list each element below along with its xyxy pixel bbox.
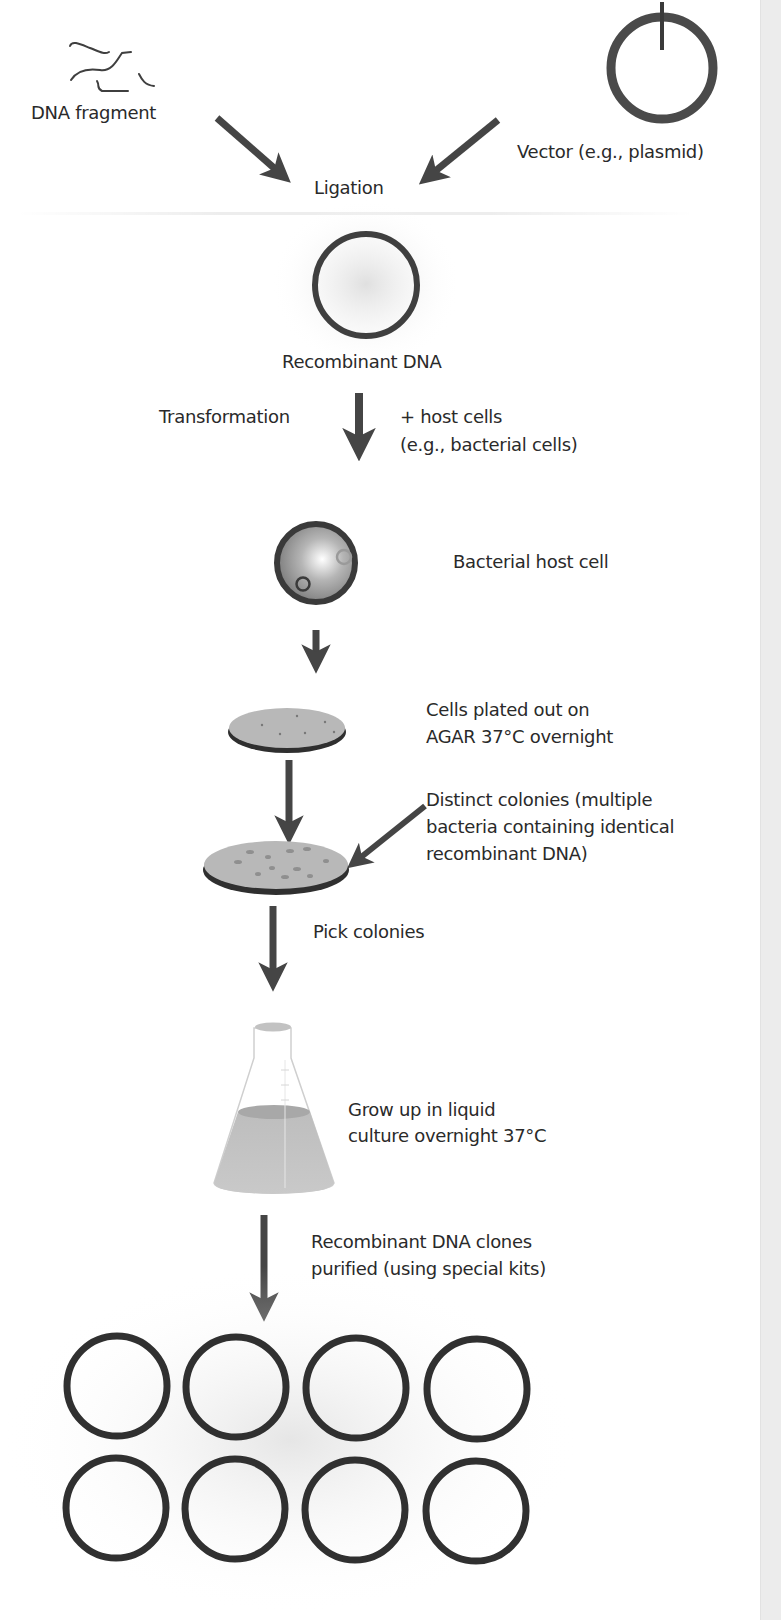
ligation-label: Ligation	[314, 176, 384, 200]
agar-plate-icon	[228, 708, 346, 753]
arrow-vector-to-ligation	[428, 120, 498, 177]
plating-label-line2: AGAR 37°C overnight	[426, 725, 613, 749]
arrow-colonies-label	[355, 806, 425, 862]
colonies-label-line3: recombinant DNA)	[426, 842, 587, 866]
plating-label-line1: Cells plated out on	[426, 698, 589, 722]
colony-plate-icon	[203, 841, 349, 895]
arrow-fragment-to-ligation	[217, 118, 282, 175]
dna-fragment-icon	[70, 43, 154, 91]
colonies-label-line2: bacteria containing identical	[426, 815, 674, 839]
culture-flask-icon	[214, 1023, 334, 1195]
bacterial-host-cell-icon	[277, 524, 355, 602]
culture-label-line1: Grow up in liquid	[348, 1098, 495, 1122]
plasmid-vector-icon	[611, 2, 713, 119]
recombinant-dna-label: Recombinant DNA	[282, 350, 441, 374]
dna-fragment-label: DNA fragment	[31, 101, 156, 125]
purify-label-line2: purified (using special kits)	[311, 1257, 546, 1281]
pick-colonies-label: Pick colonies	[313, 920, 424, 944]
purify-label-line1: Recombinant DNA clones	[311, 1230, 532, 1254]
host-cells-note: + host cells	[400, 405, 502, 429]
host-cell-label: Bacterial host cell	[453, 550, 608, 574]
transformation-label: Transformation	[159, 405, 290, 429]
vector-label: Vector (e.g., plasmid)	[517, 140, 704, 164]
host-cells-example: (e.g., bacterial cells)	[400, 433, 578, 457]
colonies-label-line1: Distinct colonies (multiple	[426, 788, 652, 812]
culture-label-line2: culture overnight 37°C	[348, 1124, 546, 1148]
